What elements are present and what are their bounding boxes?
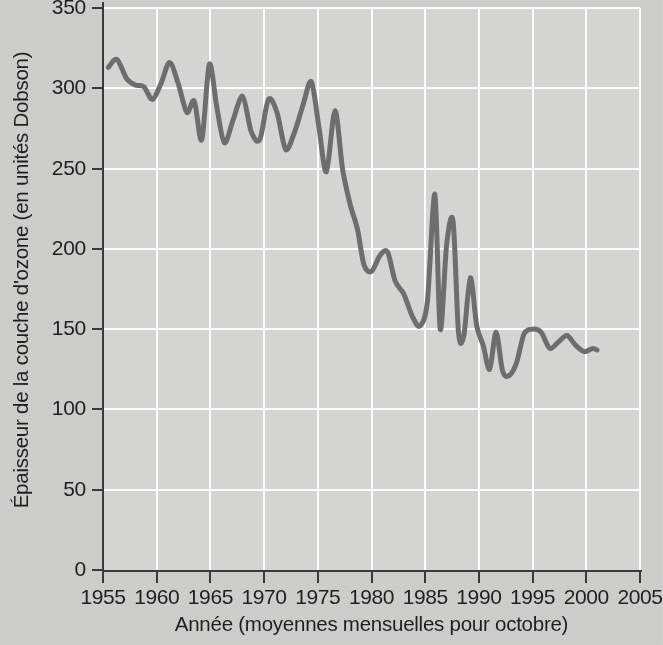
x-tick-mark <box>102 572 104 583</box>
y-tick-mark <box>92 328 102 330</box>
x-tick-mark <box>209 572 211 583</box>
data-series-line <box>103 8 640 570</box>
x-tick-label: 1975 <box>295 585 340 609</box>
x-axis-title: Année (moyennes mensuelles pour octobre) <box>103 612 640 636</box>
y-tick-mark <box>92 87 102 89</box>
y-tick-mark <box>92 569 102 571</box>
y-tick-label: 350 <box>52 0 86 19</box>
x-tick-label: 1985 <box>403 585 448 609</box>
x-tick-mark <box>263 572 265 583</box>
x-tick-label: 1960 <box>134 585 179 609</box>
x-tick-label: 1990 <box>456 585 501 609</box>
y-tick-label: 300 <box>52 75 86 99</box>
x-tick-label: 1970 <box>242 585 287 609</box>
y-tick-label: 250 <box>52 156 86 180</box>
y-tick-mark <box>92 408 102 410</box>
x-tick-label: 1980 <box>349 585 394 609</box>
y-tick-label: 50 <box>63 477 86 501</box>
x-tick-label: 2000 <box>564 585 609 609</box>
y-tick-label: 200 <box>52 236 86 260</box>
x-tick-label: 1965 <box>188 585 233 609</box>
x-tick-mark <box>317 572 319 583</box>
plot-area <box>103 8 640 570</box>
x-tick-mark <box>639 572 641 583</box>
x-tick-mark <box>532 572 534 583</box>
y-tick-mark <box>92 7 102 9</box>
y-axis-line <box>102 2 104 572</box>
x-tick-label: 2005 <box>617 585 662 609</box>
y-tick-label: 0 <box>75 557 86 581</box>
x-tick-mark <box>585 572 587 583</box>
y-tick-label: 150 <box>52 316 86 340</box>
y-tick-mark <box>92 168 102 170</box>
x-tick-label: 1995 <box>510 585 555 609</box>
x-tick-label: 1955 <box>80 585 125 609</box>
x-tick-mark <box>478 572 480 583</box>
x-tick-mark <box>156 572 158 583</box>
y-tick-label: 100 <box>52 396 86 420</box>
y-tick-mark <box>92 489 102 491</box>
y-axis-title: Épaisseur de la couche d'ozone (en unité… <box>6 0 36 570</box>
x-tick-mark <box>371 572 373 583</box>
ozone-series-path <box>108 59 597 376</box>
y-tick-mark <box>92 248 102 250</box>
x-tick-mark <box>424 572 426 583</box>
